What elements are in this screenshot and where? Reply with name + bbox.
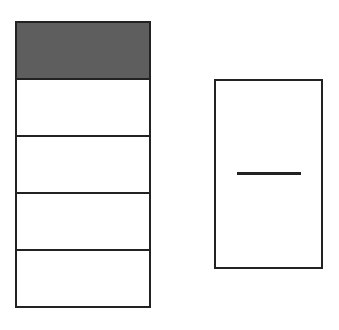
bar-segment xyxy=(17,78,149,135)
bar-segment xyxy=(17,192,149,249)
bar-segment xyxy=(17,249,149,306)
answer-box xyxy=(214,79,323,269)
bar-segment xyxy=(17,135,149,192)
horizontal-line xyxy=(237,172,301,175)
segmented-bar xyxy=(15,21,151,308)
bar-segment-shaded xyxy=(17,23,149,78)
